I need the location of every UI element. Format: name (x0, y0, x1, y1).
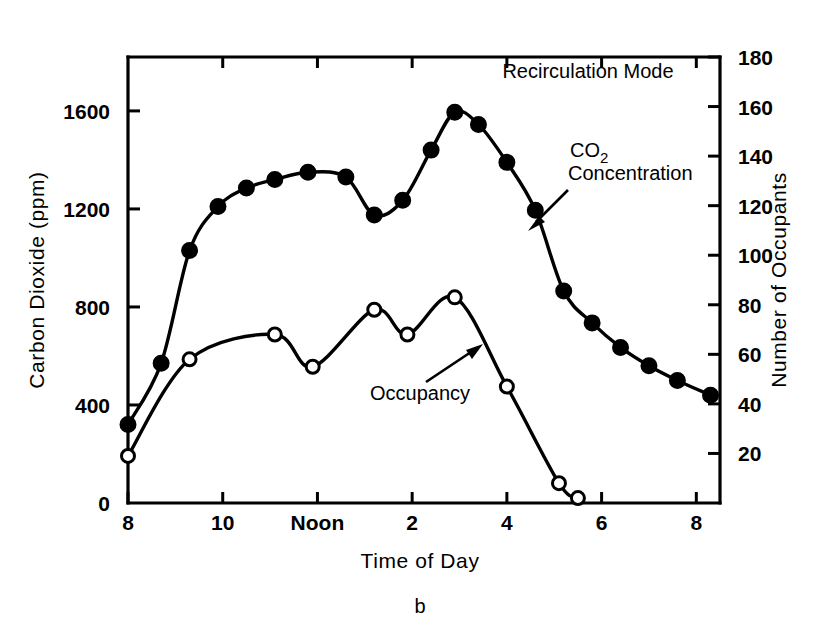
y-tick-label: 1600 (63, 100, 110, 123)
data-point-open-marker (368, 303, 381, 316)
data-point-filled-marker (447, 105, 462, 120)
data-point-filled-marker (471, 117, 486, 132)
data-point-open-marker (552, 477, 565, 490)
chart-canvas: 810Noon246804008001200160020406080100120… (0, 0, 825, 634)
y-tick-label: 400 (75, 394, 110, 417)
y2-tick-label: 80 (738, 294, 761, 317)
data-point-open-marker (268, 328, 281, 341)
data-point-filled-marker (556, 284, 571, 299)
data-point-filled-marker (585, 315, 600, 330)
data-point-filled-marker (121, 417, 136, 432)
data-point-filled-marker (367, 208, 382, 223)
series-line (128, 111, 711, 425)
occupancy-annotation-arrowhead (466, 344, 483, 359)
data-point-filled-marker (703, 388, 718, 403)
y-tick-label: 800 (75, 296, 110, 319)
occupancy-annotation-leader (426, 350, 474, 382)
y2-tick-label: 140 (738, 145, 773, 168)
data-point-open-marker (448, 291, 461, 304)
data-point-filled-marker (300, 165, 315, 180)
data-point-filled-marker (338, 170, 353, 185)
x-tick-label: 2 (406, 511, 418, 534)
co2-annotation-line2: Concentration (568, 162, 693, 184)
panel-letter-label: b (414, 595, 425, 617)
co2-concentration-annotation: CO2 Concentration (528, 139, 693, 231)
data-point-filled-marker (267, 172, 282, 187)
co2-annotation-text: CO (570, 139, 600, 161)
data-point-filled-marker (670, 373, 685, 388)
data-point-open-marker (500, 380, 513, 393)
recirculation-mode-label: Recirculation Mode (502, 60, 673, 82)
axis-tick-marks (128, 57, 720, 503)
y-tick-label: 1200 (63, 198, 110, 221)
data-point-open-marker (571, 492, 584, 505)
y2-tick-label: 20 (738, 442, 761, 465)
y2-tick-label: 180 (738, 46, 773, 69)
x-tick-label: 4 (501, 511, 513, 534)
co2-occupancy-chart-figure: 810Noon246804008001200160020406080100120… (0, 0, 825, 634)
y2-tick-label: 40 (738, 393, 761, 416)
plot-frame (128, 57, 720, 503)
data-point-filled-marker (641, 358, 656, 373)
x-tick-label: 6 (596, 511, 608, 534)
x-tick-label: Noon (291, 511, 345, 534)
y2-tick-label: 60 (738, 343, 761, 366)
series-occupancy (122, 291, 585, 505)
data-point-filled-marker (424, 143, 439, 158)
data-point-open-marker (122, 449, 135, 462)
y2-axis-title: Number of Occupants (767, 172, 790, 388)
occupancy-annotation-text: Occupancy (370, 382, 470, 404)
x-axis-title: Time of Day (360, 549, 479, 572)
occupancy-annotation: Occupancy (370, 344, 483, 404)
y-axis-title: Carbon Dioxide (ppm) (25, 171, 48, 388)
data-point-filled-marker (528, 203, 543, 218)
data-point-filled-marker (210, 199, 225, 214)
data-point-filled-marker (182, 243, 197, 258)
axis-tick-labels: 810Noon246804008001200160020406080100120… (63, 46, 773, 534)
data-point-filled-marker (613, 340, 628, 355)
x-tick-label: 10 (211, 511, 234, 534)
x-tick-label: 8 (122, 511, 134, 534)
data-point-filled-marker (395, 193, 410, 208)
data-point-filled-marker (154, 356, 169, 371)
data-point-open-marker (306, 360, 319, 373)
data-point-filled-marker (499, 155, 514, 170)
data-point-open-marker (183, 353, 196, 366)
series-line (128, 296, 578, 498)
y2-tick-label: 160 (738, 96, 773, 119)
data-point-open-marker (401, 328, 414, 341)
data-point-filled-marker (239, 181, 254, 196)
y-tick-label: 0 (98, 492, 110, 515)
x-tick-label: 8 (690, 511, 702, 534)
